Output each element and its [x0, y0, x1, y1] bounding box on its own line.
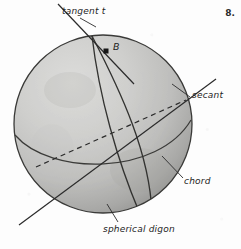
chord-label: chord: [184, 176, 211, 186]
spherical-digon-label: spherical digon: [103, 224, 175, 234]
tangent-leader: [80, 18, 96, 27]
sphere-diagram: [0, 0, 241, 249]
figure-number: 8.: [225, 8, 235, 18]
point-b-marker: [104, 49, 109, 54]
tangent-label: tangent t: [62, 6, 105, 16]
point-b-label: B: [113, 41, 120, 52]
figure-page: tangent t secant chord spherical digon B…: [0, 0, 241, 249]
sphere-body: [14, 35, 192, 213]
secant-label: secant: [192, 90, 223, 100]
